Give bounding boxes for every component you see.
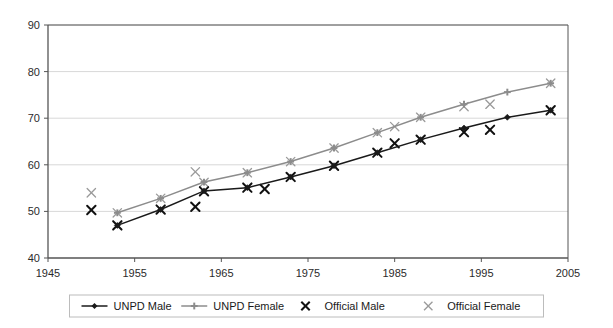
y-tick-label: 50 — [28, 205, 40, 217]
x-tick-label: 1945 — [36, 267, 60, 279]
x-tick-label: 2005 — [556, 267, 580, 279]
unpd-female-marker — [504, 89, 511, 96]
x-tick-label: 1965 — [209, 267, 233, 279]
legend-item-label: Official Male — [325, 300, 385, 312]
chart-container: 4050607080901945195519651975198519952005… — [0, 0, 613, 328]
x-tick-label: 1995 — [469, 267, 493, 279]
legend-item-label: UNPD Female — [213, 300, 284, 312]
official-male-marker — [87, 206, 95, 214]
y-tick-label: 80 — [28, 66, 40, 78]
y-tick-label: 60 — [28, 159, 40, 171]
unpd-male-marker — [504, 114, 510, 120]
legend-item-label: UNPD Male — [114, 300, 172, 312]
official-female-marker — [191, 168, 199, 176]
official-male-marker — [260, 185, 268, 193]
x-tick-label: 1985 — [382, 267, 406, 279]
x-tick-label: 1955 — [122, 267, 146, 279]
line-chart: 4050607080901945195519651975198519952005… — [0, 0, 613, 328]
y-tick-label: 90 — [28, 19, 40, 31]
legend-item-label: Official Female — [447, 300, 520, 312]
y-tick-label: 40 — [28, 252, 40, 264]
official-male-marker — [486, 126, 494, 134]
official-female-marker — [87, 189, 95, 197]
official-male-marker — [191, 203, 199, 211]
x-tick-label: 1975 — [296, 267, 320, 279]
unpd-female-marker — [461, 101, 468, 108]
y-tick-label: 70 — [28, 112, 40, 124]
official-female-marker — [486, 100, 494, 108]
